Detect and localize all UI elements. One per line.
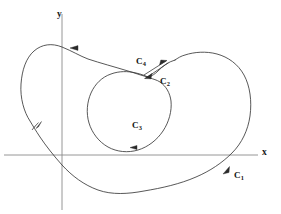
curve-label-c4: C4 bbox=[136, 57, 146, 66]
curve-label-c2-subscript: 2 bbox=[167, 80, 170, 87]
y-axis-label: y bbox=[57, 10, 62, 20]
arrow-head-c3 bbox=[130, 145, 137, 149]
arrow-head-c1-top bbox=[70, 46, 78, 51]
curve-label-c1: C1 bbox=[234, 171, 244, 180]
inner-contour-c3 bbox=[87, 72, 171, 152]
x-axis-label: x bbox=[262, 148, 267, 158]
curve-label-c2: C2 bbox=[160, 77, 170, 86]
arrow-head-c1-left-second bbox=[36, 122, 42, 129]
figure-canvas bbox=[0, 0, 281, 214]
curve-label-c2-base: C bbox=[160, 76, 167, 86]
curve-label-c1-subscript: 1 bbox=[241, 174, 244, 181]
curve-label-c3-subscript: 3 bbox=[139, 124, 142, 131]
contour-diagram-figure: x y C1 C2 C3 C4 bbox=[0, 0, 281, 214]
curve-label-c1-base: C bbox=[234, 170, 241, 180]
arrow-head-c1-bottom-right bbox=[223, 167, 230, 175]
curve-label-c3-base: C bbox=[132, 120, 139, 130]
curve-label-c3: C3 bbox=[132, 121, 142, 130]
curve-label-c4-base: C bbox=[136, 56, 143, 66]
curve-label-c4-subscript: 4 bbox=[143, 60, 146, 67]
